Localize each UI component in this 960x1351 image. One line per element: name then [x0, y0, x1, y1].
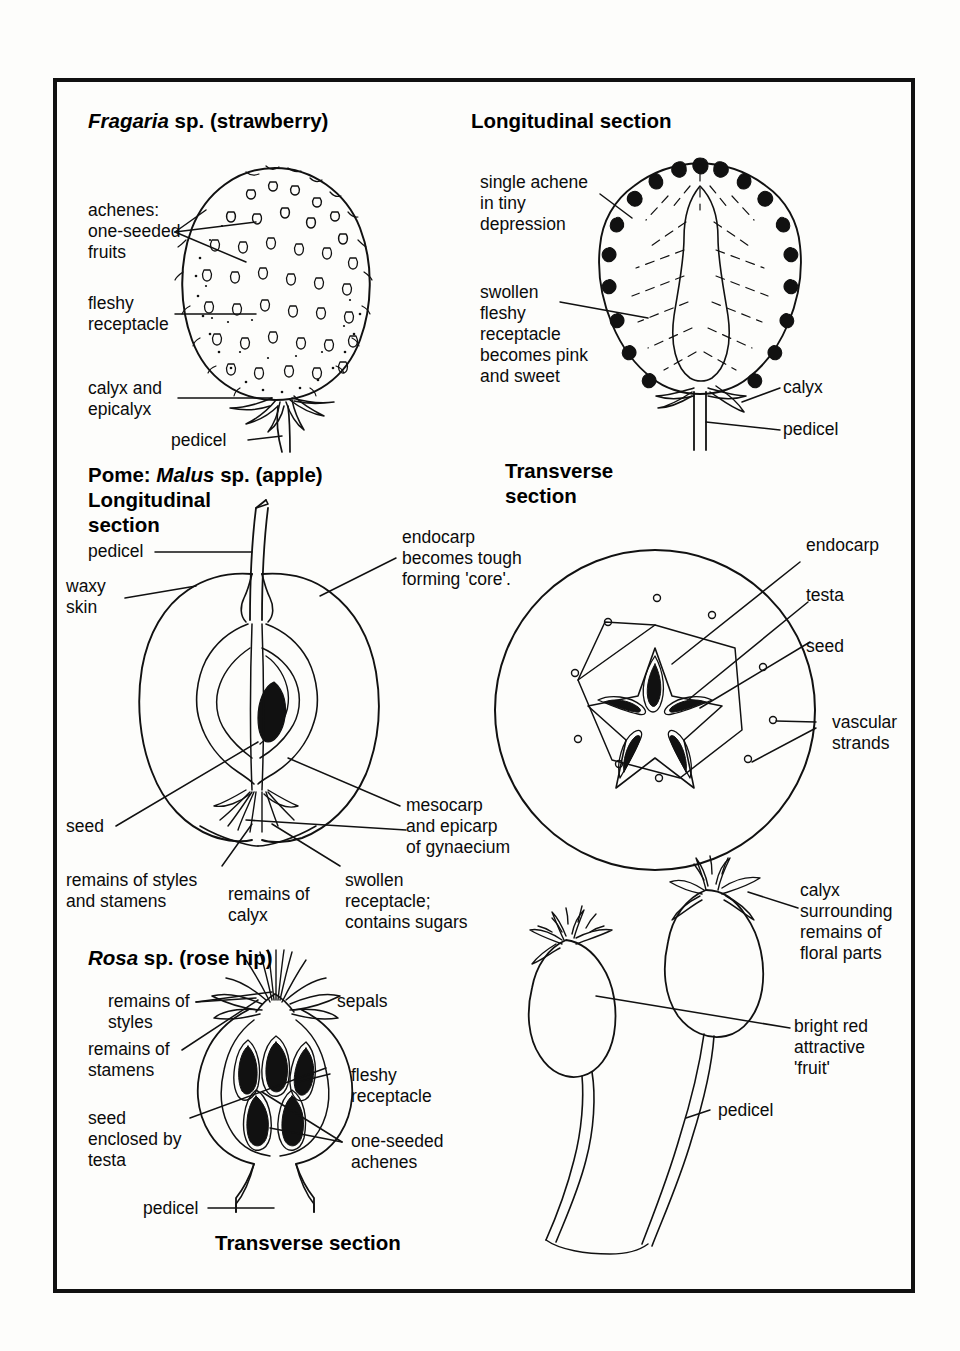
heading-rosa-rest: sp. (rose hip) — [138, 946, 272, 969]
heading-fragaria-rest: sp. (strawberry) — [169, 109, 329, 132]
heading-transverse-section-apple-l1: Transverse — [505, 458, 613, 483]
heading-pome-genus: Malus — [156, 463, 214, 486]
rose-ts-leader-lines — [182, 992, 342, 1208]
label-fleshy-receptacle-rose: fleshy receptacle — [351, 1065, 432, 1107]
apple-ts-drawing — [495, 550, 815, 870]
label-seed-enclosed-by-testa: seed enclosed by testa — [88, 1108, 181, 1171]
label-pedicel-apple: pedicel — [88, 541, 143, 562]
label-pedicel-rose-ts: pedicel — [143, 1198, 198, 1219]
label-calyx-and-epicalyx: calyx and epicalyx — [88, 378, 162, 420]
heading-fragaria-genus: Fragaria — [88, 109, 169, 132]
rose-hips-leader-lines — [596, 892, 798, 1118]
label-seed-apple-ls: seed — [66, 816, 104, 837]
heading-pome-ls-line3: section — [88, 512, 160, 537]
heading-rosa-genus: Rosa — [88, 946, 138, 969]
heading-rosa: Rosa sp. (rose hip) — [88, 945, 273, 970]
label-testa-ts: testa — [806, 585, 844, 606]
label-remains-styles-stamens: remains of styles and stamens — [66, 870, 197, 912]
label-swollen-fleshy-receptacle: swollen fleshy receptacle becomes pink a… — [480, 282, 588, 387]
heading-pome-prefix: Pome: — [88, 463, 156, 486]
label-achenes: achenes: one-seeded fruits — [88, 200, 180, 263]
label-vascular-strands: vascular strands — [832, 712, 897, 754]
label-bright-red-attractive-fruit: bright red attractive 'fruit' — [794, 1016, 868, 1079]
heading-longitudinal-section-strawberry: Longitudinal section — [471, 108, 671, 133]
label-calyx-surrounding-floral-parts: calyx surrounding remains of floral part… — [800, 880, 892, 964]
label-sepals: sepals — [337, 991, 388, 1012]
rose-hips-whole-drawing — [529, 856, 763, 1254]
label-endocarp-ts: endocarp — [806, 535, 879, 556]
label-remains-of-stamens: remains of stamens — [88, 1039, 170, 1081]
label-seed-ts: seed — [806, 636, 844, 657]
heading-transverse-section-rose: Transverse section — [215, 1230, 401, 1255]
heading-transverse-section-apple-l2: section — [505, 483, 577, 508]
heading-pome-rest: sp. (apple) — [214, 463, 322, 486]
label-remains-of-calyx: remains of calyx — [228, 884, 310, 926]
label-waxy-skin: waxy skin — [66, 576, 106, 618]
label-pedicel-strawberry: pedicel — [171, 430, 226, 451]
heading-pome-ls-line2: Longitudinal — [88, 487, 211, 512]
label-remains-of-styles: remains of styles — [108, 991, 190, 1033]
label-pedicel-strawberry-ls: pedicel — [783, 419, 838, 440]
label-single-achene: single achene in tiny depression — [480, 172, 588, 235]
strawberry-leader-lines — [175, 210, 282, 440]
label-swollen-receptacle-sugars: swollen receptacle; contains sugars — [345, 870, 468, 933]
heading-fragaria: Fragaria sp. (strawberry) — [88, 108, 328, 133]
label-one-seeded-achenes: one-seeded achenes — [351, 1131, 443, 1173]
label-mesocarp-epicarp: mesocarp and epicarp of gynaecium — [406, 795, 510, 858]
label-fleshy-receptacle-strawberry: fleshy receptacle — [88, 293, 169, 335]
rose-hip-ts-drawing — [198, 950, 353, 1212]
strawberry-ls-drawing — [599, 158, 801, 450]
label-pedicel-rose-hips: pedicel — [718, 1100, 773, 1121]
diagram-page: Fragaria sp. (strawberry) Longitudinal s… — [0, 0, 960, 1351]
heading-pome: Pome: Malus sp. (apple) — [88, 462, 323, 487]
label-calyx-strawberry-ls: calyx — [783, 377, 823, 398]
label-endocarp-core: endocarp becomes tough forming 'core'. — [402, 527, 522, 590]
strawberry-whole-drawing — [175, 166, 372, 452]
